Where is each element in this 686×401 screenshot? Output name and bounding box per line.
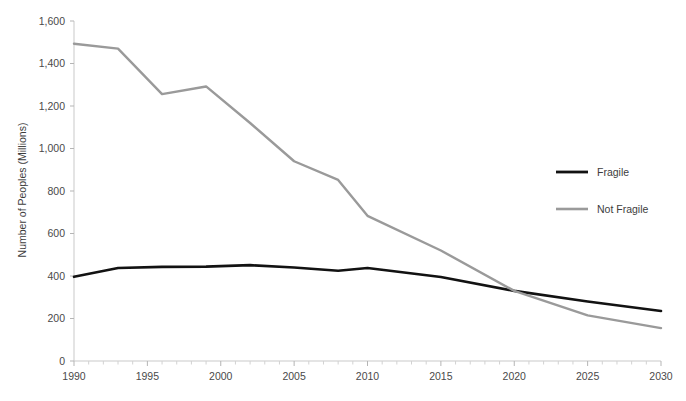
y-axis-tick-label: 1,400: [39, 57, 65, 69]
x-axis-tick-label: 2005: [282, 370, 306, 382]
y-axis-tick-label: 1,600: [39, 15, 65, 27]
y-axis-title: Number of Peoples (Millions): [16, 123, 28, 258]
x-axis-tick-labels: 199019952000200520102015202020252030: [62, 370, 673, 382]
y-axis-tick-label: 400: [47, 270, 65, 282]
chart-container: 02004006008001,0001,2001,4001,600 199019…: [0, 0, 686, 401]
y-axis-tick-label: 1,200: [39, 100, 65, 112]
x-axis-tick-label: 1995: [136, 370, 160, 382]
chart-background: [0, 0, 686, 401]
y-axis-tick-label: 0: [59, 355, 65, 367]
legend-label-fragile: Fragile: [597, 166, 629, 178]
y-axis-tick-label: 600: [47, 227, 65, 239]
x-axis-tick-label: 2015: [429, 370, 453, 382]
x-axis-tick-label: 2010: [356, 370, 380, 382]
y-axis-tick-label: 200: [47, 312, 65, 324]
x-axis-tick-label: 2020: [503, 370, 527, 382]
x-axis-tick-label: 2030: [649, 370, 673, 382]
line-chart: 02004006008001,0001,2001,4001,600 199019…: [0, 0, 686, 401]
x-axis-tick-label: 1990: [62, 370, 86, 382]
y-axis-tick-label: 800: [47, 185, 65, 197]
y-axis-tick-label: 1,000: [39, 142, 65, 154]
legend-label-not-fragile: Not Fragile: [597, 203, 649, 215]
x-axis-tick-label: 2000: [209, 370, 233, 382]
x-axis-tick-label: 2025: [576, 370, 600, 382]
